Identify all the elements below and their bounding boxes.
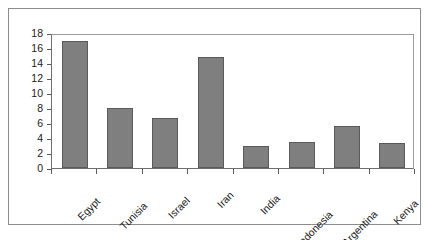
x-axis-label-israel: Israel [166,194,193,221]
bar-kenya[interactable] [379,143,405,169]
x-axis-tick-mark [414,169,415,174]
x-axis-tick-mark [233,169,234,174]
bar-indonesia[interactable] [289,142,315,168]
x-axis-tick-mark [369,169,370,174]
bars-layer [52,35,413,168]
bar-slot [143,35,188,168]
x-axis-label-tunisia: Tunisia [117,200,149,232]
x-axis-tick-mark [51,169,52,174]
x-axis-tick-mark [278,169,279,174]
bar-slot [370,35,415,168]
bar-india[interactable] [243,146,269,168]
x-axis: EgyptTunisiaIsraelIranIndiaIndonesiaArge… [51,169,414,225]
bar-egypt[interactable] [62,41,88,169]
y-axis-tick-label: 8 [37,102,43,114]
bar-slot [324,35,369,168]
y-axis-tick-label: 14 [31,57,43,69]
y-axis: 181614121086420 [9,34,51,169]
y-axis-tick-label: 16 [31,42,43,54]
bar-slot [52,35,97,168]
y-axis-tick-label: 4 [37,132,43,144]
bar-slot [234,35,279,168]
x-axis-label-iran: Iran [214,189,235,210]
bar-slot [279,35,324,168]
bar-slot [188,35,233,168]
figure-frame: 181614121086420 EgyptTunisiaIsraelIranIn… [8,8,421,225]
y-axis-tick-label: 0 [37,162,43,174]
bar-tunisia[interactable] [107,108,133,168]
x-axis-tick-mark [142,169,143,174]
y-axis-tick-label: 6 [37,117,43,129]
bar-argentina[interactable] [334,126,360,168]
plot-area [51,34,414,169]
y-axis-tick-label: 18 [31,27,43,39]
x-axis-tick-mark [187,169,188,174]
bar-slot [97,35,142,168]
x-axis-tick-mark [323,169,324,174]
y-axis-tick-label: 2 [37,147,43,159]
x-axis-label-argentina: Argentina [339,208,379,238]
bar-iran[interactable] [198,57,224,168]
bar-chart-figure: 181614121086420 EgyptTunisiaIsraelIranIn… [0,0,432,238]
x-axis-label-indonesia: Indonesia [294,208,335,238]
bar-israel[interactable] [152,118,178,168]
x-axis-label-egypt: Egypt [75,195,102,222]
x-axis-label-kenya: Kenya [391,197,421,227]
y-axis-tick-label: 12 [31,72,43,84]
y-axis-tick-label: 10 [31,87,43,99]
x-axis-tick-mark [96,169,97,174]
x-axis-label-india: India [258,192,283,217]
